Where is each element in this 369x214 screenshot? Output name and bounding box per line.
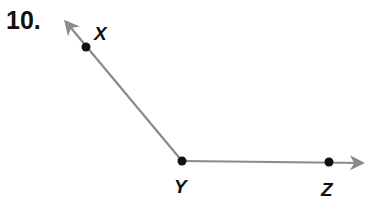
label-y: Y (174, 176, 189, 197)
label-z: Z (320, 179, 334, 200)
ray-yx (66, 22, 182, 161)
angle-diagram: X Y Z (0, 0, 369, 214)
point-z (325, 158, 334, 167)
point-y (178, 157, 187, 166)
label-x: X (93, 23, 108, 44)
ray-yz (182, 161, 362, 163)
point-x (82, 43, 91, 52)
